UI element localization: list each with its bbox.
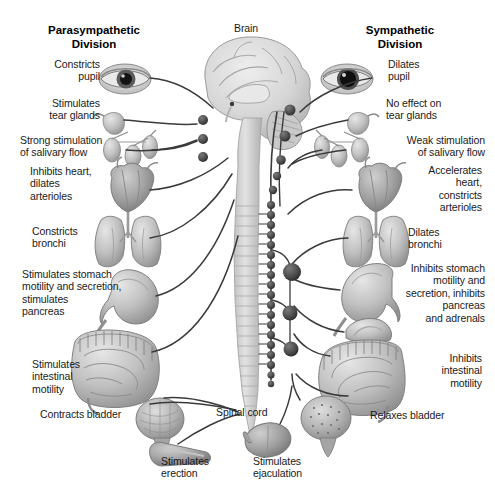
label-stimulates-intestinal-motility: Stimulates intestinal motility <box>32 358 112 395</box>
sympathetic-division-title: Sympathetic Division <box>330 24 470 51</box>
label-no-effect-tear-glands: No effect on tear glands <box>386 97 486 122</box>
spinal-cord-label: Spinal cord <box>216 406 296 418</box>
right-salivary-glands-illustration <box>315 130 369 167</box>
label-stimulates-ejaculation: Stimulates ejaculation <box>253 455 333 480</box>
label-stimulates-tear-glands: Stimulates tear glands <box>8 97 100 122</box>
parasympathetic-division-title: Parasympathetic Division <box>24 24 164 51</box>
label-dilates-bronchi: Dilates bronchi <box>408 226 488 251</box>
autonomic-nervous-system-diagram: Parasympathetic Division Sympathetic Div… <box>0 0 495 496</box>
label-contracts-bladder: Contracts bladder <box>40 408 140 420</box>
label-relaxes-bladder: Relaxes bladder <box>370 409 480 421</box>
spinal-cord-illustration <box>234 118 262 440</box>
label-inhibits-heart: Inhibits heart, dilates arterioles <box>30 165 122 202</box>
left-eye-illustration <box>99 64 151 94</box>
brain-label: Brain <box>206 22 286 34</box>
label-accelerates-heart: Accelerates heart, constricts arterioles <box>382 164 482 214</box>
label-inhibits-stomach: Inhibits stomach motility and secretion,… <box>360 262 485 324</box>
label-inhibits-intestinal-motility: Inhibits intestinal motility <box>398 352 482 389</box>
label-constricts-bronchi: Constricts bronchi <box>32 225 116 250</box>
label-weak-salivary: Weak stimulation of salivary flow <box>370 134 485 159</box>
right-tear-gland-illustration <box>348 113 379 135</box>
label-constricts-pupil: Constricts pupil <box>10 58 100 83</box>
parasympathetic-ganglia <box>198 115 208 162</box>
label-stimulates-erection: Stimulates erection <box>161 455 231 480</box>
right-lungs-illustration <box>343 212 409 267</box>
label-dilates-pupil: Dilates pupil <box>388 58 478 83</box>
label-strong-salivary: Strong stimulation of salivary flow <box>20 134 130 159</box>
label-stimulates-stomach: Stimulates stomach motility and secretio… <box>22 268 142 318</box>
right-bladder-illustration <box>301 396 351 457</box>
